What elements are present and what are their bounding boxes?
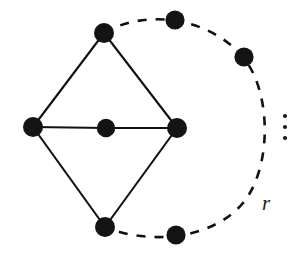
graph-node-bottom-left	[95, 217, 115, 237]
graph-edge-left-topleft	[33, 33, 104, 127]
vertical-ellipsis	[283, 114, 287, 140]
graph-canvas: r	[0, 0, 299, 261]
graph-node-center	[97, 119, 115, 137]
graph-node-arc-top	[165, 10, 184, 29]
graph-node-right	[167, 118, 187, 138]
graph-edge-left-center	[33, 127, 106, 128]
graph-figure: r	[0, 0, 299, 261]
ellipsis-dot-1	[283, 114, 287, 118]
arc-label-r: r	[262, 191, 271, 215]
ellipsis-dot-3	[283, 136, 287, 140]
graph-node-arc-bottom	[166, 225, 185, 244]
graph-edge-topleft-right	[104, 33, 177, 128]
ellipsis-dot-2	[283, 125, 287, 129]
graph-node-arc-upper-right	[234, 47, 253, 66]
graph-edge-left-bottomleft	[33, 127, 105, 227]
graph-node-left	[23, 117, 43, 137]
graph-edge-bottomleft-right	[105, 128, 177, 227]
graph-node-top-left	[94, 23, 114, 43]
